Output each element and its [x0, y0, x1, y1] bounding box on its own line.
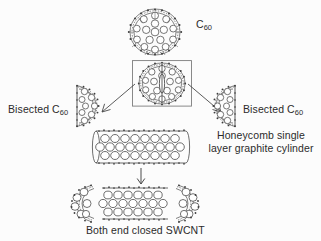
honeycomb-graphite-cylinder	[89, 126, 193, 168]
bisected-left-text: Bisected C	[8, 103, 60, 115]
bisected-right-text: Bisected C	[243, 103, 295, 115]
fullerene-to-swcnt-diagram: C60	[0, 0, 321, 241]
c60-label-text: C	[196, 18, 204, 30]
c60-fullerene-sphere	[124, 6, 186, 58]
c60-label: C60	[196, 18, 212, 34]
swcnt-label: Both end closed SWCNT	[86, 224, 205, 236]
bisected-c60-left-hemisphere	[70, 84, 102, 128]
bisected-right-subscript: 60	[295, 108, 303, 117]
honeycomb-cylinder-label: Honeycomb single layer graphite cylinder	[205, 129, 317, 155]
bisected-left-subscript: 60	[60, 108, 68, 117]
bisected-c60-left-label: Bisected C60	[8, 103, 68, 119]
bisected-c60-right-hemisphere	[210, 84, 242, 128]
both-end-closed-swcnt	[60, 182, 210, 224]
c60-label-subscript: 60	[204, 23, 212, 32]
bisected-c60-right-label: Bisected C60	[243, 103, 303, 119]
